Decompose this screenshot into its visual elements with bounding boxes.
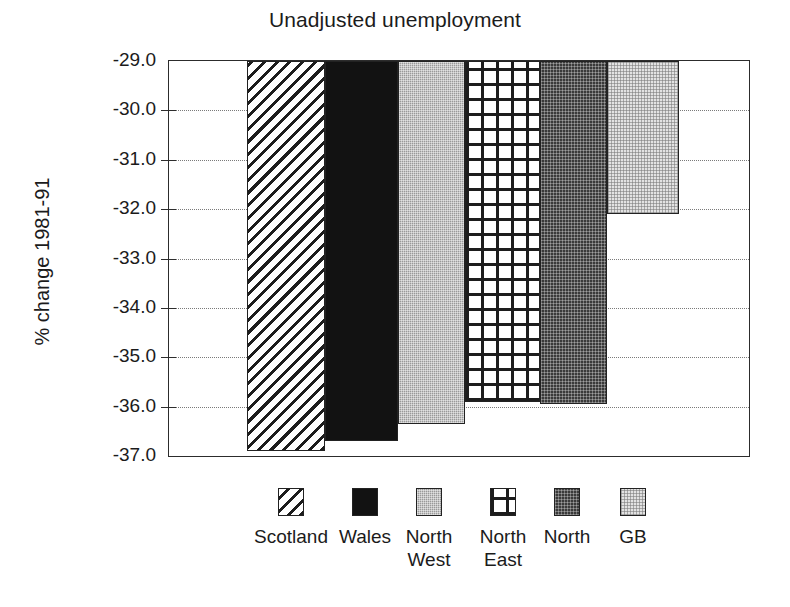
y-axis-tick-mark bbox=[161, 110, 176, 111]
y-axis-tick-label: -36.0 bbox=[78, 395, 156, 417]
gridline bbox=[169, 160, 749, 161]
legend-label: North West bbox=[390, 525, 468, 571]
legend-swatch-icon bbox=[352, 488, 378, 516]
y-axis-tick-label: -32.0 bbox=[78, 197, 156, 219]
y-axis-tick-mark bbox=[161, 308, 176, 309]
legend-item-gb[interactable]: GB bbox=[603, 488, 663, 548]
chart-legend: ScotlandWalesNorth WestNorth EastNorthGB bbox=[0, 488, 790, 598]
legend-item-north-west[interactable]: North West bbox=[390, 488, 468, 571]
y-axis-tick-label: -33.0 bbox=[78, 247, 156, 269]
y-axis-tick-label: -30.0 bbox=[78, 98, 156, 120]
legend-swatch-icon bbox=[490, 488, 516, 516]
y-axis-tick-mark bbox=[161, 357, 176, 358]
y-axis-tick-mark bbox=[161, 407, 176, 408]
y-axis-tick-label: -31.0 bbox=[78, 148, 156, 170]
y-axis-tick-label: -37.0 bbox=[78, 444, 156, 466]
y-axis-tick-label: -35.0 bbox=[78, 345, 156, 367]
legend-swatch-icon bbox=[416, 488, 442, 516]
y-axis-tick-label: -34.0 bbox=[78, 296, 156, 318]
gridline bbox=[169, 209, 749, 210]
legend-item-scotland[interactable]: Scotland bbox=[246, 488, 336, 548]
legend-swatch-icon bbox=[554, 488, 580, 516]
legend-label: Scotland bbox=[246, 525, 336, 548]
gridline bbox=[169, 407, 749, 408]
y-axis-tick-mark bbox=[161, 259, 176, 260]
legend-item-north[interactable]: North bbox=[528, 488, 606, 548]
y-axis-tick-mark bbox=[161, 160, 176, 161]
y-axis-label: % change 1981-91 bbox=[31, 102, 54, 422]
chart-title: Unadjusted unemployment bbox=[0, 8, 790, 32]
gridline bbox=[169, 308, 749, 309]
gridline bbox=[169, 259, 749, 260]
legend-swatch-icon bbox=[278, 488, 304, 516]
legend-swatch-icon bbox=[620, 488, 646, 516]
chart-figure: Unadjusted unemployment % change 1981-91… bbox=[0, 0, 790, 607]
legend-label: GB bbox=[603, 525, 663, 548]
gridline bbox=[169, 357, 749, 358]
y-axis-tick-label: -29.0 bbox=[78, 49, 156, 71]
legend-label: North bbox=[528, 525, 606, 548]
gridline bbox=[169, 110, 749, 111]
y-axis-tick-mark bbox=[161, 209, 176, 210]
